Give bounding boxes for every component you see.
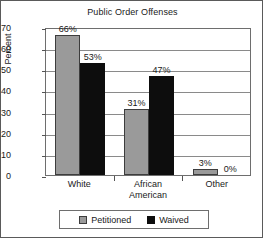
y-axis-tick-mark <box>42 135 46 136</box>
y-axis-tick-mark <box>42 156 46 157</box>
bar-value-label: 0% <box>210 164 250 174</box>
bar-value-label: 66% <box>48 24 88 34</box>
y-axis-tick-mark <box>42 177 46 178</box>
bar-waived-white[interactable] <box>80 63 105 175</box>
y-axis-tick-mark <box>42 92 46 93</box>
legend-item-waived[interactable]: Waived <box>147 215 189 225</box>
legend-swatch-petitioned <box>79 216 87 224</box>
y-axis-tick-label: 30 <box>0 108 11 118</box>
chart-container: Public Order Offenses Percent 7060504030… <box>0 0 263 238</box>
y-axis-tick-mark <box>42 71 46 72</box>
y-axis-tick-label: 60 <box>0 44 11 54</box>
y-axis-tick-mark <box>42 50 46 51</box>
legend-item-petitioned[interactable]: Petitioned <box>79 215 131 225</box>
chart-legend: PetitionedWaived <box>59 210 209 229</box>
legend-label: Petitioned <box>91 215 131 225</box>
bar-petitioned-african-american[interactable] <box>124 109 149 175</box>
y-axis-tick-label: 0 <box>0 171 11 181</box>
plot-area: 66%53%31%47%3%0% <box>45 28 251 176</box>
y-axis-tick-label: 40 <box>0 86 11 96</box>
bar-waived-african-american[interactable] <box>149 76 174 175</box>
y-axis-tick-mark <box>42 29 46 30</box>
y-axis-tick-label: 50 <box>0 65 11 75</box>
legend-label: Waived <box>159 215 189 225</box>
bar-value-label: 53% <box>73 52 113 62</box>
y-axis-tick-label: 70 <box>0 23 11 33</box>
x-axis-category-label: Other <box>174 179 260 190</box>
y-axis-tick-mark <box>42 114 46 115</box>
chart-title: Public Order Offenses <box>1 7 263 17</box>
y-axis-tick-label: 10 <box>0 150 11 160</box>
legend-swatch-waived <box>147 216 155 224</box>
bar-value-label: 47% <box>142 65 182 75</box>
y-axis-tick-label: 20 <box>0 129 11 139</box>
